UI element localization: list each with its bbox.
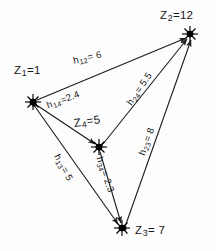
edge-label-h12-value: = 6 bbox=[86, 49, 102, 63]
diagram-canvas: Z1=1 Z2=12 Z3= 7 Z4=5 h12= 6 h14=2.4 h24… bbox=[0, 0, 216, 251]
node-label-z4-value: =5 bbox=[86, 113, 101, 127]
node-marker-z1[interactable] bbox=[25, 94, 41, 110]
node-marker-z2[interactable] bbox=[182, 26, 198, 42]
edges-group bbox=[36, 38, 191, 224]
node-label-z3: Z3= 7 bbox=[135, 224, 165, 238]
node-label-z3-value: = 7 bbox=[148, 224, 165, 236]
node-label-z1: Z1=1 bbox=[14, 64, 41, 78]
graph-svg bbox=[0, 0, 216, 251]
node-label-z2: Z2=12 bbox=[160, 9, 193, 23]
edge-line-z2-z3 bbox=[126, 40, 191, 224]
node-label-z1-value: =1 bbox=[27, 64, 41, 76]
node-label-z2-value: =12 bbox=[173, 9, 193, 21]
